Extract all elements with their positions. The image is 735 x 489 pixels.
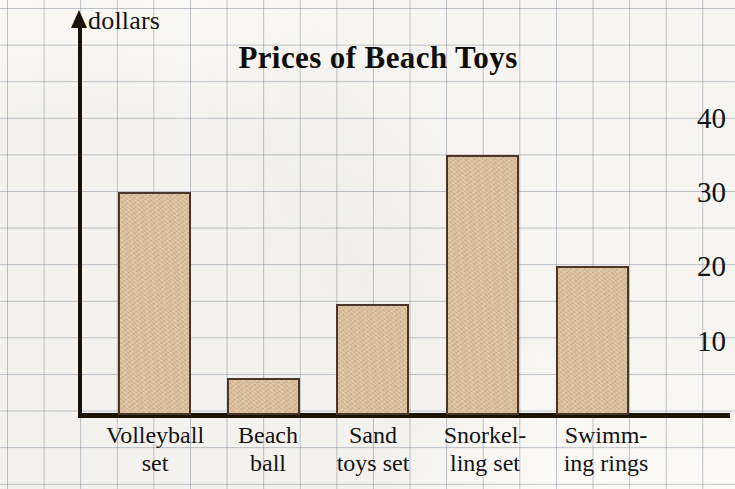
chart-title: Prices of Beach Toys — [168, 40, 588, 76]
y-axis-line — [78, 22, 82, 417]
x-category-label-swimming-rings: Swimm- ing rings — [540, 421, 672, 478]
x-category-label-sand-toys-set: Sand toys set — [318, 421, 428, 478]
bar-sand-toys-set[interactable] — [336, 304, 409, 415]
x-category-label-snorkeling-set: Snorkel- ling set — [424, 421, 546, 478]
y-tick-label-40: 40 — [661, 104, 735, 133]
y-axis-arrow-icon — [71, 10, 87, 28]
bar-chart-plot: dollars Prices of Beach Toys 10 20 30 40… — [0, 0, 735, 489]
bar-volleyball-set[interactable] — [118, 192, 191, 415]
x-category-label-volleyball-set: Volleyball set — [86, 421, 224, 478]
x-category-label-beach-ball: Beach ball — [222, 421, 314, 478]
chart-page: dollars Prices of Beach Toys 10 20 30 40… — [0, 0, 735, 489]
y-tick-label-10: 10 — [661, 327, 735, 356]
bar-swimming-rings[interactable] — [556, 266, 629, 415]
y-tick-label-20: 20 — [661, 252, 735, 281]
y-axis-unit-label: dollars — [88, 6, 160, 36]
bar-snorkeling-set[interactable] — [446, 155, 519, 415]
y-tick-label-30: 30 — [661, 178, 735, 207]
bar-beach-ball[interactable] — [227, 378, 300, 415]
